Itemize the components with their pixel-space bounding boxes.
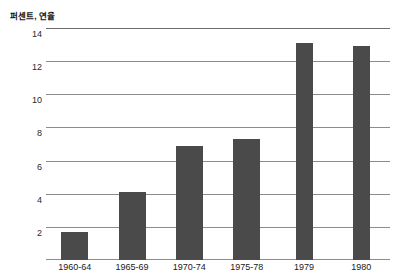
bars (46, 28, 390, 260)
bar-1980 (353, 46, 370, 260)
bar-1960-64 (61, 232, 88, 260)
chart-unit-title: 퍼센트, 연율 (10, 9, 55, 21)
y-axis-tick-label: 4 (37, 195, 42, 206)
bar-1970-74 (176, 146, 203, 260)
y-axis-tick-label: 10 (32, 95, 42, 106)
y-axis-tick-label: 8 (37, 128, 42, 139)
x-axis-tick-label: 1960-64 (58, 262, 91, 272)
y-axis-tick-label: 2 (37, 228, 42, 239)
y-axis-tick-label: 14 (32, 29, 42, 40)
x-axis-tick-label: 1970-74 (173, 262, 206, 272)
y-axis-tick-label: 6 (37, 162, 42, 173)
bar-chart-figure: 퍼센트, 연율 2468101214 1960-641965-691970-74… (0, 0, 400, 277)
x-axis-labels: 1960-641965-691970-741975-7819791980 (46, 262, 390, 276)
bar-1965-69 (119, 192, 146, 260)
x-axis-tick-label: 1975-78 (230, 262, 263, 272)
bar-1979 (296, 43, 313, 260)
x-axis-tick-label: 1979 (294, 262, 314, 272)
x-axis-tick-label: 1980 (351, 262, 371, 272)
bar-1975-78 (233, 139, 260, 260)
y-axis-tick-label: 12 (32, 62, 42, 73)
plot-area: 2468101214 (46, 28, 390, 260)
x-axis-tick-label: 1965-69 (115, 262, 148, 272)
